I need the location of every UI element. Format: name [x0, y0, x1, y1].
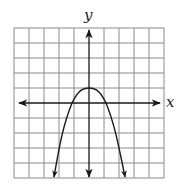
x-axis-label: x [166, 93, 175, 111]
graph: y x [0, 0, 180, 191]
y-axis-label: y [83, 6, 93, 24]
